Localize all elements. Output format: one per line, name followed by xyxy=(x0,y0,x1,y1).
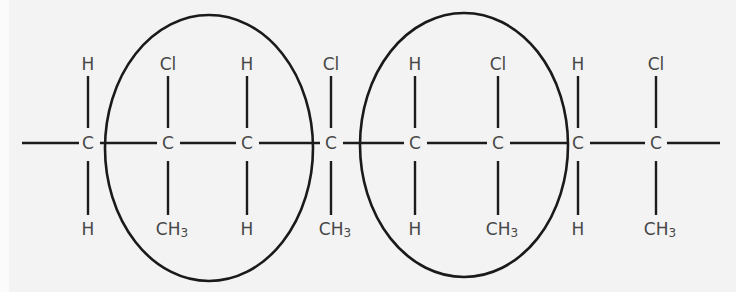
carbon-atom-label: C xyxy=(572,133,584,153)
chlorine-substituent: Cl xyxy=(323,54,340,74)
carbon-atom-label: C xyxy=(325,133,337,153)
hydrogen-substituent: H xyxy=(572,54,585,74)
hydrogen-substituent: H xyxy=(82,219,95,239)
carbon-atom-label: C xyxy=(650,133,662,153)
methyl-substituent: CH3 xyxy=(319,219,351,240)
hydrogen-substituent: H xyxy=(572,219,585,239)
hydrogen-substituent: H xyxy=(82,54,95,74)
carbon-atom-label: C xyxy=(162,133,174,153)
repeat-unit-circle xyxy=(360,13,568,277)
chlorine-substituent: Cl xyxy=(160,54,177,74)
carbon-atom-label: C xyxy=(409,133,421,153)
chlorine-substituent: Cl xyxy=(648,54,665,74)
hydrogen-substituent: H xyxy=(241,54,254,74)
methyl-substituent: CH3 xyxy=(486,219,518,240)
methyl-substituent: CH3 xyxy=(644,219,676,240)
diagram-canvas: CHHCClCH3CHHCClCH3CHHCClCH3CHHCClCH3 xyxy=(0,0,736,292)
methyl-substituent: CH3 xyxy=(156,219,188,240)
repeat-unit-circle xyxy=(105,15,313,281)
hydrogen-substituent: H xyxy=(409,219,422,239)
chlorine-substituent: Cl xyxy=(490,54,507,74)
hydrogen-substituent: H xyxy=(409,54,422,74)
carbon-atom-label: C xyxy=(82,133,94,153)
carbon-atom-label: C xyxy=(492,133,504,153)
carbon-atom-label: C xyxy=(241,133,253,153)
hydrogen-substituent: H xyxy=(241,219,254,239)
polymer-structure-diagram: CHHCClCH3CHHCClCH3CHHCClCH3CHHCClCH3 xyxy=(0,0,736,292)
